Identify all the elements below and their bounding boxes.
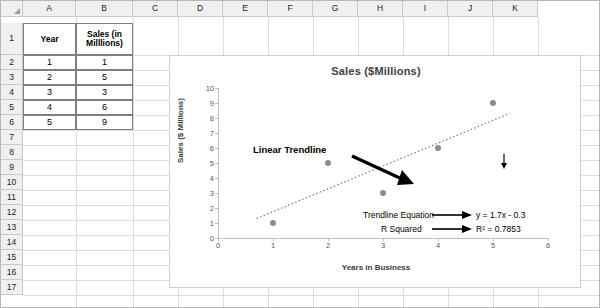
x-tick-label: 4 <box>436 241 440 250</box>
x-tick-label: 2 <box>326 241 330 250</box>
data-point <box>325 160 331 166</box>
y-tick-label: 6 <box>210 144 214 153</box>
row-header-17[interactable]: 17 <box>1 280 23 295</box>
column-header-g[interactable]: G <box>313 1 358 17</box>
equation-arrow-icon <box>432 209 474 221</box>
annotation-trendline-label: Linear Trendline <box>253 144 326 155</box>
data-point <box>270 220 276 226</box>
y-tick-label: 9 <box>210 99 214 108</box>
y-tick-label: 7 <box>210 129 214 138</box>
column-header-h[interactable]: H <box>358 1 403 17</box>
excel-worksheet-screenshot: ABCDEFGHIJK 1234567891011121314151617 Ye… <box>0 0 600 308</box>
select-all-triangle-icon <box>14 8 20 14</box>
y-tick-label: 10 <box>206 84 214 93</box>
cell-a4[interactable]: 3 <box>23 85 76 100</box>
trendline-arrow-icon <box>350 152 418 188</box>
chart-y-axis-label: Sales ($ Millions) <box>176 98 185 163</box>
column-header-k[interactable]: K <box>493 1 538 17</box>
row-header-11[interactable]: 11 <box>1 190 23 205</box>
column-header-i[interactable]: I <box>403 1 448 17</box>
row-header-1[interactable]: 1 <box>1 23 23 55</box>
column-header-e[interactable]: E <box>223 1 268 17</box>
column-header-f[interactable]: F <box>268 1 313 17</box>
x-tick-mark <box>273 238 274 241</box>
scatter-chart[interactable]: Sales ($Millions) Sales ($ Millions) Yea… <box>169 55 581 288</box>
y-tick-label: 8 <box>210 114 214 123</box>
annotation-equation-label: Trendline Equation <box>363 210 434 220</box>
row-header-9[interactable]: 9 <box>1 160 23 175</box>
cell-b6[interactable]: 9 <box>76 115 133 130</box>
row-header-10[interactable]: 10 <box>1 175 23 190</box>
y-tick-label: 0 <box>210 234 214 243</box>
row-header-3[interactable]: 3 <box>1 70 23 85</box>
annotation-rsquared-value: R² = 0.7853 <box>476 224 521 234</box>
row-header-8[interactable]: 8 <box>1 145 23 160</box>
down-arrow-icon <box>500 154 510 170</box>
x-tick-mark <box>383 238 384 241</box>
x-tick-mark <box>493 238 494 241</box>
row-header-4[interactable]: 4 <box>1 85 23 100</box>
cell-b1[interactable]: Sales (in Milllions) <box>76 23 133 55</box>
row-header-16[interactable]: 16 <box>1 265 23 280</box>
cell-b2[interactable]: 1 <box>76 55 133 70</box>
chart-x-axis-label: Years in Business <box>170 263 582 272</box>
x-tick-label: 0 <box>216 241 220 250</box>
annotation-rsquared-label: R Squared <box>381 224 422 234</box>
x-tick-mark <box>218 238 219 241</box>
x-tick-label: 5 <box>491 241 495 250</box>
y-tick-label: 5 <box>210 159 214 168</box>
row-header-13[interactable]: 13 <box>1 220 23 235</box>
rsquared-arrow-icon <box>432 223 474 235</box>
row-header-14[interactable]: 14 <box>1 235 23 250</box>
column-header-j[interactable]: J <box>448 1 493 17</box>
row-header-5[interactable]: 5 <box>1 100 23 115</box>
cell-a5[interactable]: 4 <box>23 100 76 115</box>
x-tick-label: 6 <box>546 241 550 250</box>
row-header-7[interactable]: 7 <box>1 130 23 145</box>
column-header-b[interactable]: B <box>76 1 133 17</box>
x-tick-mark <box>328 238 329 241</box>
row-header-15[interactable]: 15 <box>1 250 23 265</box>
x-tick-label: 1 <box>271 241 275 250</box>
cell-a3[interactable]: 2 <box>23 70 76 85</box>
data-point <box>490 100 496 106</box>
x-tick-label: 3 <box>381 241 385 250</box>
row-header-12[interactable]: 12 <box>1 205 23 220</box>
y-tick-label: 2 <box>210 204 214 213</box>
y-tick-label: 1 <box>210 219 214 228</box>
row-header-2[interactable]: 2 <box>1 55 23 70</box>
column-header-a[interactable]: A <box>23 1 76 17</box>
cell-a6[interactable]: 5 <box>23 115 76 130</box>
gridline-horizontal <box>23 295 600 296</box>
cell-b4[interactable]: 3 <box>76 85 133 100</box>
cell-b5[interactable]: 6 <box>76 100 133 115</box>
data-point <box>435 145 441 151</box>
cell-b3[interactable]: 5 <box>76 70 133 85</box>
y-tick-label: 4 <box>210 174 214 183</box>
annotation-equation-value: y = 1.7x - 0.3 <box>476 210 525 220</box>
x-tick-mark <box>438 238 439 241</box>
cell-a1[interactable]: Year <box>23 23 76 55</box>
x-tick-mark <box>548 238 549 241</box>
column-header-d[interactable]: D <box>178 1 223 17</box>
select-all-corner[interactable] <box>1 1 23 17</box>
chart-title: Sales ($Millions) <box>170 65 582 77</box>
row-header-6[interactable]: 6 <box>1 115 23 130</box>
column-header-c[interactable]: C <box>133 1 178 17</box>
y-tick-label: 3 <box>210 189 214 198</box>
cell-a2[interactable]: 1 <box>23 55 76 70</box>
data-point <box>380 190 386 196</box>
